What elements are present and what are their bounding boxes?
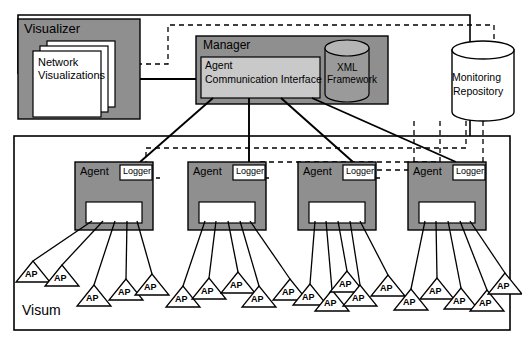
access-point-label: AP: [282, 288, 295, 298]
agent-inner-panel-2: [199, 202, 255, 223]
network-visualizations-label-line1: Network: [38, 56, 78, 68]
agent-logger-label-3: Logger: [346, 167, 374, 177]
access-point-label: AP: [479, 299, 492, 309]
access-point-label: AP: [453, 297, 466, 307]
access-point-label: AP: [429, 287, 442, 297]
access-point-label: AP: [118, 288, 131, 298]
agent-label-3: Agent: [303, 165, 332, 177]
agent-label-4: Agent: [413, 165, 442, 177]
access-point-label: AP: [86, 294, 99, 304]
agent-logger-label-1: Logger: [123, 167, 151, 177]
access-point-label: AP: [302, 293, 315, 303]
access-point-label: AP: [352, 294, 365, 304]
xml-framework-label-line2: Framework: [327, 74, 377, 85]
access-point-label: AP: [144, 283, 157, 293]
agent-inner-panel-1: [86, 202, 142, 223]
network-visualizations-label-line2: Visualizations: [38, 69, 105, 81]
access-point-label: AP: [339, 280, 352, 290]
visum-label: Visum: [22, 303, 61, 318]
agent-logger-label-4: Logger: [456, 167, 484, 177]
monitoring-repository-label-line1: Monitoring: [452, 72, 501, 84]
agent-inner-panel-4: [419, 202, 475, 223]
agent-label-1: Agent: [80, 165, 109, 177]
access-point-label: AP: [54, 274, 67, 284]
agent-label-2: Agent: [193, 165, 222, 177]
manager-label: Manager: [203, 39, 250, 52]
monitoring-repository-label-line2: Repository: [453, 86, 503, 98]
access-point-label: AP: [201, 287, 214, 297]
access-point-label: AP: [380, 284, 393, 294]
agent-communication-interface-label-line1: Agent: [205, 60, 232, 72]
agent-inner-panel-3: [309, 202, 365, 223]
access-point-label: AP: [251, 295, 264, 305]
access-point-label: AP: [175, 295, 188, 305]
access-point-label: AP: [324, 299, 337, 309]
access-point-label: AP: [230, 281, 243, 291]
xml-framework-label-line1: XML: [337, 62, 358, 73]
agent-logger-label-2: Logger: [236, 167, 264, 177]
access-point-label: AP: [403, 298, 416, 308]
architecture-diagram: Visualizer Network Visualizations Manage…: [0, 0, 522, 337]
access-point-label: AP: [497, 282, 510, 292]
visualizer-label: Visualizer: [24, 22, 80, 36]
agent-communication-interface-label-line2: Communication Interface: [205, 74, 322, 86]
access-point-label: AP: [25, 270, 38, 280]
